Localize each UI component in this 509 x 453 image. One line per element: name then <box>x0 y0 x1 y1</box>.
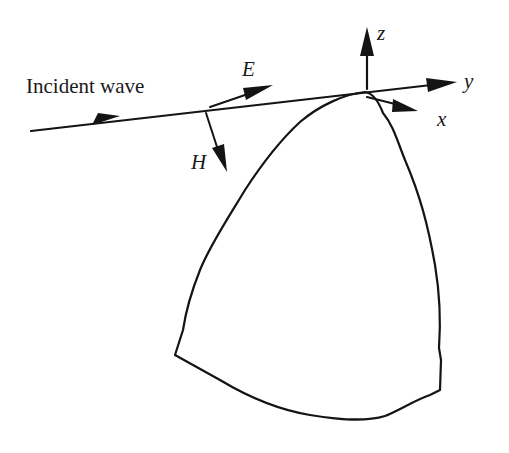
x-axis-line <box>367 97 395 104</box>
e-field-line <box>210 94 248 107</box>
h-field-line <box>206 113 218 150</box>
incident-wave-label: Incident wave <box>26 74 144 98</box>
z-axis-label: z <box>376 21 385 45</box>
x-axis-arrowhead <box>392 99 418 112</box>
h-field-label: H <box>190 150 208 174</box>
e-field-arrowhead <box>243 85 273 100</box>
x-axis-label: x <box>436 107 447 131</box>
z-axis-arrowhead <box>360 27 374 56</box>
h-field-arrowhead <box>212 144 227 172</box>
y-axis-arrowhead <box>426 78 457 92</box>
e-field-label: E <box>241 57 255 81</box>
y-axis-label: y <box>462 69 474 93</box>
scattering-diagram: Incident wave E H z y x <box>0 0 509 453</box>
